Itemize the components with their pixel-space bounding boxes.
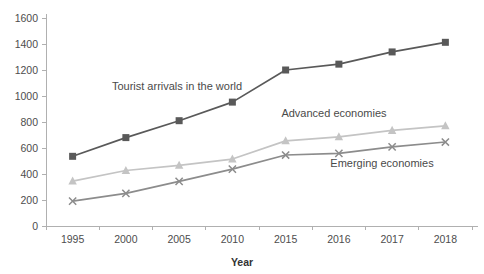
data-point-marker [442, 39, 449, 46]
data-series-group [68, 39, 449, 205]
x-axis-tick-labels: 19952000200520102015201620172018 [61, 233, 457, 245]
x-axis-title: Year [231, 256, 253, 268]
y-axis-tick-label: 600 [20, 142, 38, 154]
data-series [68, 121, 449, 184]
series-label: Tourist arrivals in the world [112, 80, 242, 92]
chart-canvas: 02004006008001000120014001600 1995200020… [0, 0, 484, 274]
y-axis-tick-label: 1000 [15, 90, 39, 102]
y-axis-tick-label: 800 [20, 116, 38, 128]
series-annotations-group: Tourist arrivals in the worldAdvanced ec… [112, 80, 434, 169]
axis-group [42, 14, 478, 230]
x-axis-tick-label: 2015 [274, 233, 298, 245]
data-point-marker [282, 67, 289, 74]
x-axis-tick-label: 2017 [380, 233, 404, 245]
x-axis-tick-label: 2010 [221, 233, 245, 245]
y-axis-tick-labels: 02004006008001000120014001600 [15, 12, 39, 232]
y-axis-tick-label: 200 [20, 194, 38, 206]
data-point-marker [122, 134, 129, 141]
line-chart-figure: 02004006008001000120014001600 1995200020… [0, 0, 484, 274]
data-point-marker [176, 117, 183, 124]
series-label: Advanced economies [281, 107, 387, 119]
data-point-marker [389, 48, 396, 55]
data-point-marker [335, 61, 342, 68]
x-axis-tick-label: 2000 [114, 233, 138, 245]
y-axis-tick-label: 1200 [15, 64, 39, 76]
data-point-marker [69, 153, 76, 160]
y-axis-tick-label: 1600 [15, 12, 39, 24]
data-point-marker [229, 99, 236, 106]
data-series [69, 39, 449, 160]
series-label: Emerging economies [330, 157, 434, 169]
y-axis-tick-label: 400 [20, 168, 38, 180]
x-axis-tick-label: 2018 [434, 233, 458, 245]
x-axis-tick-label: 2016 [327, 233, 351, 245]
y-axis-tick-label: 0 [32, 220, 38, 232]
y-axis-tick-label: 1400 [15, 38, 39, 50]
x-axis-tick-label: 2005 [167, 233, 191, 245]
x-axis-tick-label: 1995 [61, 233, 85, 245]
